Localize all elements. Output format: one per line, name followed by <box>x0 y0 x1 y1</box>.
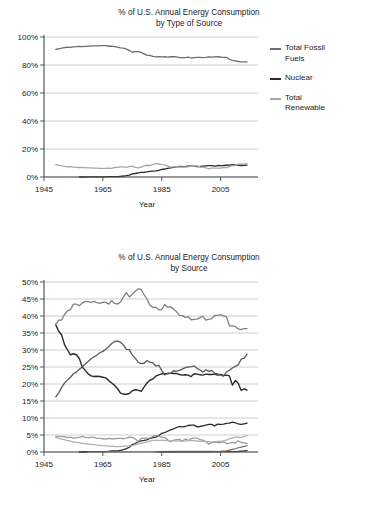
legend-label: Nuclear <box>285 73 313 84</box>
chart-title-1: % of U.S. Annual Energy Consumption by T… <box>0 0 378 29</box>
legend-item-total-renewable[interactable]: Total Renewable <box>270 93 378 114</box>
svg-text:5%: 5% <box>26 431 38 440</box>
svg-text:50%: 50% <box>22 278 38 287</box>
svg-text:1945: 1945 <box>35 460 53 469</box>
legend-swatch-icon <box>270 78 281 80</box>
svg-text:30%: 30% <box>22 346 38 355</box>
legend-swatch-icon <box>270 98 281 100</box>
chart-title-1-line1: % of U.S. Annual Energy Consumption <box>118 8 259 17</box>
line-chart-2: 0%5%10%15%20%25%30%35%40%45%50%194519651… <box>0 274 378 509</box>
svg-text:35%: 35% <box>22 329 38 338</box>
legend-item-nuclear[interactable]: Nuclear <box>270 73 378 84</box>
svg-text:0%: 0% <box>26 173 38 182</box>
svg-text:2005: 2005 <box>212 460 230 469</box>
svg-text:40%: 40% <box>22 117 38 126</box>
chart-title-1-line2: by Type of Source <box>0 18 378 29</box>
legend-1: Total Fossil FuelsNuclearTotal Renewable <box>270 43 378 123</box>
chart-title-2-line2: by Source <box>0 263 378 274</box>
svg-text:10%: 10% <box>22 414 38 423</box>
svg-text:60%: 60% <box>22 89 38 98</box>
svg-text:20%: 20% <box>22 145 38 154</box>
svg-text:Year: Year <box>139 200 156 209</box>
legend-label: Total Fossil Fuels <box>285 43 325 64</box>
svg-text:25%: 25% <box>22 363 38 372</box>
plot-area-2: 0%5%10%15%20%25%30%35%40%45%50%194519651… <box>0 274 378 509</box>
svg-text:20%: 20% <box>22 380 38 389</box>
svg-text:80%: 80% <box>22 61 38 70</box>
chart-title-2: % of U.S. Annual Energy Consumption by S… <box>0 245 378 274</box>
svg-text:15%: 15% <box>22 397 38 406</box>
svg-text:2005: 2005 <box>212 185 230 194</box>
legend-label: Total Renewable <box>285 93 325 114</box>
chart-title-2-line1: % of U.S. Annual Energy Consumption <box>118 253 259 262</box>
figure-energy-by-type: % of U.S. Annual Energy Consumption by T… <box>0 0 378 245</box>
svg-text:1945: 1945 <box>35 185 53 194</box>
svg-text:1985: 1985 <box>153 185 171 194</box>
svg-text:1965: 1965 <box>94 460 112 469</box>
svg-text:0%: 0% <box>26 448 38 457</box>
legend-item-total-fossil-fuels[interactable]: Total Fossil Fuels <box>270 43 378 64</box>
svg-text:45%: 45% <box>22 295 38 304</box>
svg-text:Year: Year <box>139 475 156 484</box>
svg-text:1985: 1985 <box>153 460 171 469</box>
svg-text:40%: 40% <box>22 312 38 321</box>
svg-text:1965: 1965 <box>94 185 112 194</box>
svg-text:100%: 100% <box>18 33 38 42</box>
figure-energy-by-source: % of U.S. Annual Energy Consumption by S… <box>0 245 378 520</box>
legend-swatch-icon <box>270 48 281 50</box>
